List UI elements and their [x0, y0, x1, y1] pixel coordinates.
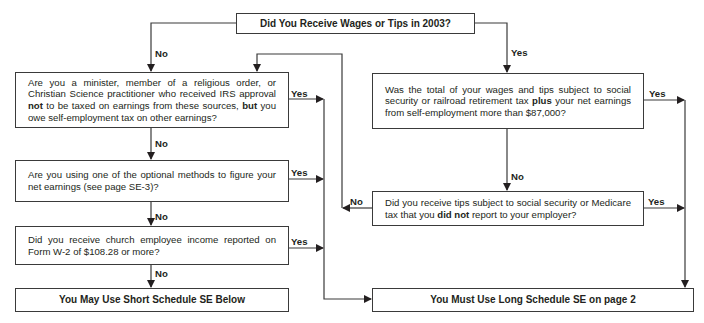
arrow-start-no	[151, 23, 236, 71]
long-schedule-result-box: You Must Use Long Schedule SE on page 2	[372, 288, 694, 312]
text-part: report to your employer?	[469, 209, 576, 220]
left-q1-box: Are you a minister, member of a religiou…	[15, 72, 289, 128]
right-q2-box: Did you receive tips subject to social s…	[372, 191, 644, 226]
left-q3-box: Did you receive church employee income r…	[15, 226, 289, 265]
emphasis-plus: plus	[532, 95, 552, 106]
label-l3-yes: Yes	[291, 236, 308, 247]
short-schedule-result-text: You May Use Short Schedule SE Below	[28, 294, 276, 306]
text-part: Are you a minister, member of a religiou…	[28, 77, 276, 100]
right-q2-text: Did you receive tips subject to social s…	[385, 197, 631, 220]
label-r1-yes: Yes	[649, 88, 666, 99]
label-start-yes: Yes	[511, 47, 528, 58]
start-question-text: Did You Receive Wages or Tips in 2003?	[249, 18, 462, 30]
right-q1-box: Was the total of your wages and tips sub…	[372, 73, 644, 129]
start-question-box: Did You Receive Wages or Tips in 2003?	[236, 13, 475, 34]
left-q3-text: Did you receive church employee income r…	[28, 234, 276, 257]
arrow-start-yes	[474, 23, 507, 72]
emphasis-did-not: did not	[437, 209, 469, 220]
label-r1-no: No	[511, 171, 524, 182]
label-l1-no: No	[155, 138, 168, 149]
short-schedule-result-box: You May Use Short Schedule SE Below	[15, 288, 289, 312]
left-q1-text: Are you a minister, member of a religiou…	[28, 77, 276, 123]
label-l2-yes: Yes	[291, 167, 308, 178]
right-q1-text: Was the total of your wages and tips sub…	[385, 84, 631, 119]
label-r2-no: No	[350, 196, 363, 207]
arrow-collector-long	[324, 99, 371, 299]
label-r2-yes: Yes	[648, 196, 665, 207]
left-q2-text: Are you using one of the optional method…	[28, 169, 276, 192]
text-part: to be taxed on earnings from these sourc…	[43, 100, 242, 111]
emphasis-but: but	[242, 100, 257, 111]
long-schedule-result-text: You Must Use Long Schedule SE on page 2	[385, 294, 681, 306]
emphasis-not: not	[28, 100, 43, 111]
label-l1-yes: Yes	[291, 88, 308, 99]
label-l2-no: No	[155, 211, 168, 222]
left-q2-box: Are you using one of the optional method…	[15, 160, 289, 202]
label-start-no: No	[155, 48, 168, 59]
label-l3-no: No	[155, 268, 168, 279]
